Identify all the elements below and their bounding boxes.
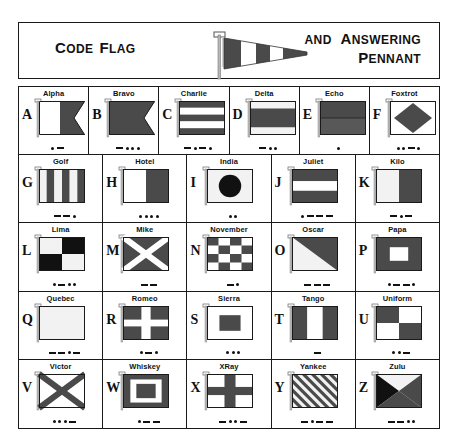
morse-dot bbox=[51, 147, 54, 150]
flag-letter: V bbox=[22, 380, 32, 396]
flag-cell-romeo[interactable]: Romeo R bbox=[103, 292, 187, 360]
flag-cell-whiskey[interactable]: Whiskey W bbox=[103, 360, 187, 428]
flag-cell-alpha[interactable]: Alpha A bbox=[19, 87, 89, 155]
flag-cell-sierra[interactable]: Sierra S bbox=[187, 292, 271, 360]
flag-name: Alpha bbox=[19, 89, 88, 98]
flag-row: Quebec Q Romeo R Sierra S bbox=[19, 292, 439, 360]
flag-cell-quebec[interactable]: Quebec Q bbox=[19, 292, 103, 360]
flag-image-delta bbox=[244, 98, 296, 138]
header-right-line2: PENNANT bbox=[305, 49, 422, 68]
morse-dash bbox=[326, 215, 333, 217]
morse-code-k bbox=[366, 211, 437, 221]
morse-dot bbox=[53, 283, 56, 286]
morse-dot bbox=[311, 420, 314, 423]
flag-cell-charlie[interactable]: Charlie C bbox=[159, 87, 229, 155]
morse-code-p bbox=[366, 280, 437, 290]
morse-dash bbox=[227, 284, 234, 286]
flag-graphic bbox=[33, 166, 85, 206]
flag-image-india bbox=[201, 166, 253, 206]
flag-image-kilo bbox=[370, 166, 422, 206]
morse-dot bbox=[140, 351, 143, 354]
flag-image-victor bbox=[33, 371, 85, 411]
flag-image-zulu bbox=[370, 371, 422, 411]
morse-code-m bbox=[113, 280, 184, 290]
flag-cell-hotel[interactable]: Hotel H bbox=[103, 155, 187, 223]
flag-graphic bbox=[117, 234, 169, 274]
header-nswering: NSWERING bbox=[352, 33, 421, 47]
morse-dash bbox=[219, 421, 226, 423]
flag-letter: L bbox=[22, 243, 31, 259]
flag-image-yankee bbox=[286, 371, 338, 411]
flag-graphic bbox=[314, 98, 366, 138]
flag-cell-kilo[interactable]: Kilo K bbox=[356, 155, 439, 223]
flag-name: Echo bbox=[300, 89, 369, 98]
morse-dash bbox=[388, 421, 395, 423]
flag-cell-uniform[interactable]: Uniform U bbox=[356, 292, 439, 360]
flag-cell-yankee[interactable]: Yankee Y bbox=[272, 360, 356, 428]
flag-cell-victor[interactable]: Victor V bbox=[19, 360, 103, 428]
flag-graphic bbox=[370, 234, 422, 274]
morse-dot bbox=[229, 420, 232, 423]
morse-code-l bbox=[29, 280, 100, 290]
morse-dash bbox=[390, 215, 397, 217]
morse-dot bbox=[229, 215, 232, 218]
morse-code-d bbox=[240, 143, 297, 153]
flag-letter: R bbox=[106, 312, 116, 328]
flag-cell-foxtrot[interactable]: Foxtrot F bbox=[370, 87, 439, 155]
flag-cell-delta[interactable]: Delta D bbox=[230, 87, 300, 155]
flag-graphic bbox=[286, 371, 338, 411]
flag-cell-papa[interactable]: Papa P bbox=[356, 223, 439, 291]
morse-code-e bbox=[310, 143, 367, 153]
flag-row: Victor V Whiskey W XRay X bbox=[19, 360, 439, 428]
morse-dot bbox=[156, 215, 159, 218]
flag-graphic bbox=[286, 303, 338, 343]
flag-letter: N bbox=[190, 243, 200, 259]
morse-dash bbox=[405, 215, 412, 217]
header-title-lag: LAG bbox=[109, 42, 136, 56]
flag-cell-bravo[interactable]: Bravo B bbox=[89, 87, 159, 155]
flag-cell-golf[interactable]: Golf G bbox=[19, 155, 103, 223]
flag-image-echo bbox=[314, 98, 366, 138]
flag-cell-oscar[interactable]: Oscar O bbox=[272, 223, 356, 291]
flag-letter: U bbox=[359, 312, 369, 328]
morse-dot bbox=[126, 147, 129, 150]
flag-name: Whiskey bbox=[103, 362, 186, 371]
morse-dot bbox=[237, 351, 240, 354]
morse-code-g bbox=[29, 211, 100, 221]
flag-letter: Z bbox=[359, 380, 368, 396]
flag-cell-india[interactable]: India I bbox=[187, 155, 271, 223]
morse-dash bbox=[69, 421, 76, 423]
flag-image-tango bbox=[286, 303, 338, 343]
flag-image-juliet bbox=[286, 166, 338, 206]
morse-code-n bbox=[197, 280, 268, 290]
flag-graphic bbox=[33, 303, 85, 343]
morse-dot bbox=[236, 283, 239, 286]
flag-name: XRay bbox=[187, 362, 270, 371]
flag-graphic bbox=[370, 371, 422, 411]
flag-cell-echo[interactable]: Echo E bbox=[300, 87, 370, 155]
flag-cell-lima[interactable]: Lima L bbox=[19, 223, 103, 291]
flag-cell-november[interactable]: November N bbox=[187, 223, 271, 291]
morse-dot bbox=[269, 147, 272, 150]
flag-cell-mike[interactable]: Mike M bbox=[103, 223, 187, 291]
flag-cell-zulu[interactable]: Zulu Z bbox=[356, 360, 439, 428]
flag-name: Yankee bbox=[272, 362, 355, 371]
flag-cell-tango[interactable]: Tango T bbox=[272, 292, 356, 360]
flag-image-hotel bbox=[117, 166, 169, 206]
flag-name: November bbox=[187, 225, 270, 234]
morse-dot bbox=[64, 420, 67, 423]
flag-letter: C bbox=[162, 107, 172, 123]
morse-code-h bbox=[113, 211, 184, 221]
flag-graphic bbox=[173, 98, 225, 138]
morse-dot bbox=[412, 420, 415, 423]
flag-cell-xray[interactable]: XRay X bbox=[187, 360, 271, 428]
morse-code-a bbox=[29, 143, 86, 153]
flag-cell-juliet[interactable]: Juliet J bbox=[272, 155, 356, 223]
morse-dot bbox=[232, 351, 235, 354]
morse-dash bbox=[259, 147, 266, 149]
flag-name: Tango bbox=[272, 294, 355, 303]
flag-image-mike bbox=[117, 234, 169, 274]
flag-letter: B bbox=[92, 107, 101, 123]
morse-dot bbox=[131, 147, 134, 150]
morse-code-f bbox=[380, 143, 437, 153]
